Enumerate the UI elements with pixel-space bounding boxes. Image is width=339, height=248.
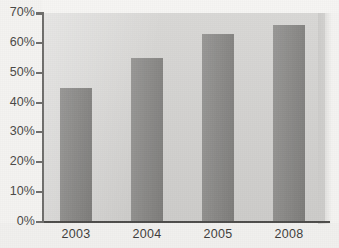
y-axis-tick: [36, 221, 44, 223]
x-axis-tick-label: 2008: [259, 227, 319, 241]
plot-area-right-edge: [318, 13, 332, 224]
bar-2005: [202, 34, 234, 222]
bar-chart-figure: 70%60%50%40%30%20%10%0% 2003200420052008: [0, 0, 339, 248]
y-axis-tick-label: 20%: [0, 154, 35, 168]
x-axis-line: [42, 221, 330, 223]
y-axis-tick: [36, 12, 44, 14]
y-axis-tick-label: 60%: [0, 35, 35, 49]
bar-2008: [273, 25, 305, 222]
y-axis-tick: [36, 42, 44, 44]
chart-top-margin: [0, 0, 339, 13]
x-axis-tick-label: 2004: [117, 227, 177, 241]
y-axis-tick-label: 50%: [0, 65, 35, 79]
x-axis-tick-label: 2005: [188, 227, 248, 241]
y-axis-tick-label: 0%: [0, 214, 35, 228]
bar-2004: [131, 58, 163, 222]
y-axis-tick-label: 40%: [0, 95, 35, 109]
y-axis-tick: [36, 102, 44, 104]
y-axis-tick-label: 10%: [0, 184, 35, 198]
y-axis-tick-label: 70%: [0, 5, 35, 19]
y-axis-tick: [36, 161, 44, 163]
bar-2003: [60, 88, 92, 222]
y-axis-tick-label: 30%: [0, 124, 35, 138]
y-axis-tick: [36, 191, 44, 193]
x-axis-tick-label: 2003: [46, 227, 106, 241]
y-axis-tick: [36, 72, 44, 74]
y-axis-tick: [36, 131, 44, 133]
